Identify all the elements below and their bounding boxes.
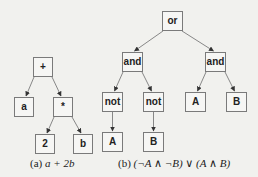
caption-b-expression: (¬A ∧ ¬B) ∨ (A ∧ B) [134,157,231,169]
edge-plus-to-mul [52,77,61,96]
caption-a-expression: a + 2b [45,157,74,169]
node-not-right: not [143,92,164,112]
edge-or-to-and2 [182,31,214,51]
edge-plus-to-a [26,77,34,96]
expression-trees-figure: + a * 2 b (a) a + 2b or and and not not … [0,0,258,177]
caption-a: (a) a + 2b [30,158,74,169]
caption-b: (b) (¬A ∧ ¬B) ∨ (A ∧ B) [118,158,230,169]
node-plus: + [33,57,53,77]
node-not-left: not [102,92,123,112]
edge-and2-to-A2 [198,72,207,91]
edge-or-to-and1 [135,31,164,51]
node-A-bottom: A [102,132,123,152]
edge-and2-to-B2 [225,72,235,91]
node-multiply: * [53,97,73,117]
edge-and1-to-not1 [115,72,124,91]
node-b: b [73,134,93,154]
edge-and1-to-not2 [142,72,152,91]
caption-b-label: (b) [118,157,131,169]
node-B-bottom: B [143,132,164,152]
node-two: 2 [35,134,55,154]
edge-mul-to-b [72,117,81,133]
node-A-right: A [185,92,206,112]
node-and-left: and [122,52,143,72]
edge-mul-to-two [47,117,54,133]
caption-a-label: (a) [30,157,42,169]
node-or: or [162,11,183,31]
node-a: a [14,97,34,117]
node-and-right: and [205,52,226,72]
node-B-right: B [226,92,247,112]
